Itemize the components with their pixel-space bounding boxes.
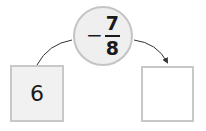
- fraction: 7 8: [105, 14, 120, 58]
- input-arc: [37, 40, 72, 65]
- function-machine-diagram: 6 − 7 8: [0, 0, 206, 131]
- output-arrow: [134, 40, 167, 62]
- operator-sign: −: [86, 23, 103, 47]
- output-box[interactable]: [141, 66, 194, 122]
- input-box: 6: [10, 65, 64, 122]
- fraction-numerator: 7: [106, 14, 119, 33]
- fraction-denominator: 8: [106, 39, 119, 58]
- operator-circle: − 7 8: [73, 6, 133, 66]
- input-value: 6: [30, 81, 44, 106]
